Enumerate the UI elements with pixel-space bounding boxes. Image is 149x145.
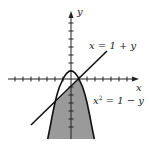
x-axis-label: x bbox=[136, 83, 142, 93]
region-plot bbox=[0, 0, 149, 145]
y-axis-label: y bbox=[77, 7, 83, 17]
diagram-canvas: y x x = 1 + y x2 = 1 − y bbox=[0, 0, 149, 145]
x-axis-arrow-icon bbox=[132, 77, 139, 82]
parabola-label-rest: = 1 − y bbox=[102, 95, 143, 106]
parabola-equation-label: x2 = 1 − y bbox=[93, 95, 144, 106]
y-axis-arrow-icon bbox=[69, 11, 74, 18]
line-equation-label: x = 1 + y bbox=[89, 41, 136, 51]
x-axis bbox=[8, 77, 136, 82]
